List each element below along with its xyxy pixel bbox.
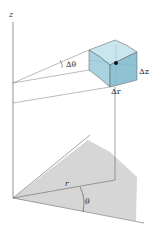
shaded-base-region xyxy=(13,140,137,221)
delta-r-label: Δr xyxy=(111,87,121,96)
ray-to-box-3 xyxy=(13,87,110,103)
ray-to-box-1 xyxy=(13,50,89,83)
ray-to-box-2 xyxy=(13,70,89,83)
delta-theta-label: Δθ xyxy=(66,60,76,69)
delta-theta-arc xyxy=(60,60,62,68)
point-marker xyxy=(114,61,118,65)
cylindrical-volume-element-diagram: z Δθ Δz Δr r θ xyxy=(0,0,159,231)
z-axis-label: z xyxy=(8,10,14,19)
r-label: r xyxy=(65,179,69,188)
theta-label: θ xyxy=(85,197,90,206)
delta-z-label: Δz xyxy=(139,67,149,76)
